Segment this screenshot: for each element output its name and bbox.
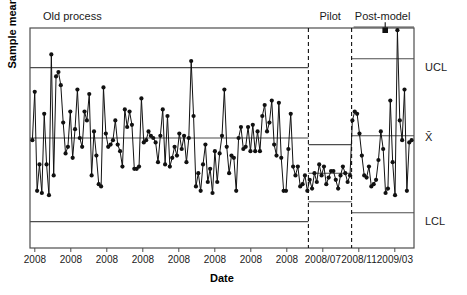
data-point [376,158,380,162]
data-point [182,134,186,138]
data-point [312,171,316,175]
data-point [203,143,207,147]
data-point [386,187,390,191]
data-point [47,193,51,197]
data-point [189,59,193,63]
data-point [296,165,300,169]
data-point [289,112,293,116]
data-point [274,154,278,158]
data-point [251,123,255,127]
data-point [398,118,402,122]
data-point [374,178,378,182]
data-point [40,191,44,195]
data-point [78,136,82,140]
x-tick-label: 2008/07 [305,254,341,265]
data-point [130,123,134,127]
data-point [267,121,271,125]
data-point [206,180,210,184]
data-point [343,171,347,175]
data-point [170,156,174,160]
data-point [123,107,127,111]
data-point [59,83,63,87]
data-point [30,138,34,142]
data-point [225,145,229,149]
data-point [410,138,414,142]
data-point [52,173,56,177]
data-point [215,180,219,184]
data-point [317,162,321,166]
data-point [293,173,297,177]
data-point [284,189,288,193]
data-point [381,147,385,151]
data-point [177,132,181,136]
data-point [118,149,122,153]
x-tick-label: 2008 [96,254,118,265]
data-point [220,134,224,138]
data-point [194,184,198,188]
data-point [139,96,143,100]
data-point [346,180,350,184]
data-point [54,74,58,78]
data-point [310,187,314,191]
data-point [324,182,328,186]
data-point [66,145,70,149]
data-point [395,28,399,32]
data-point [199,189,203,193]
x-tick-label: 2009/03 [377,254,413,265]
data-point [336,187,340,191]
data-point [270,99,274,103]
data-point [87,92,91,96]
data-point [279,156,283,160]
plot-canvas [0,0,467,295]
data-point [104,132,108,136]
data-point [108,143,112,147]
data-point [175,154,179,158]
data-point [244,145,248,149]
x-tick-label: 2008 [24,254,46,265]
data-point [213,149,217,153]
data-point [191,114,195,118]
data-point [111,138,115,142]
data-point [263,103,267,107]
data-point [35,189,39,193]
data-point [137,165,141,169]
data-point [71,156,75,160]
data-point [94,154,98,158]
data-point [364,176,368,180]
data-point [90,173,94,177]
x-tick-label: 2008/11 [341,254,376,265]
out-of-control-point [382,27,388,33]
data-point [239,125,243,129]
data-point [73,127,77,131]
data-point [101,85,105,89]
data-point [49,52,53,56]
data-point [75,88,79,92]
data-point [388,99,392,103]
x-tick-label: 2008 [132,254,154,265]
data-point [234,189,238,193]
data-point [236,136,240,140]
data-point [402,88,406,92]
data-point [44,162,48,166]
data-point [305,189,309,193]
data-point [405,189,409,193]
data-point [222,88,226,92]
data-point [303,173,307,177]
data-point [248,149,252,153]
data-point [113,118,117,122]
data-point [258,149,262,153]
data-point [300,182,304,186]
x-tick-label: 2008 [204,254,226,265]
data-point [308,178,312,182]
data-point [391,160,395,164]
data-point [196,171,200,175]
data-point [61,121,65,125]
x-tick-label: 2008 [240,254,262,265]
data-point [367,165,371,169]
data-point [146,129,150,133]
data-point [158,134,162,138]
data-point [161,107,165,111]
data-point [315,180,319,184]
data-point [286,147,290,151]
data-point [144,138,148,142]
